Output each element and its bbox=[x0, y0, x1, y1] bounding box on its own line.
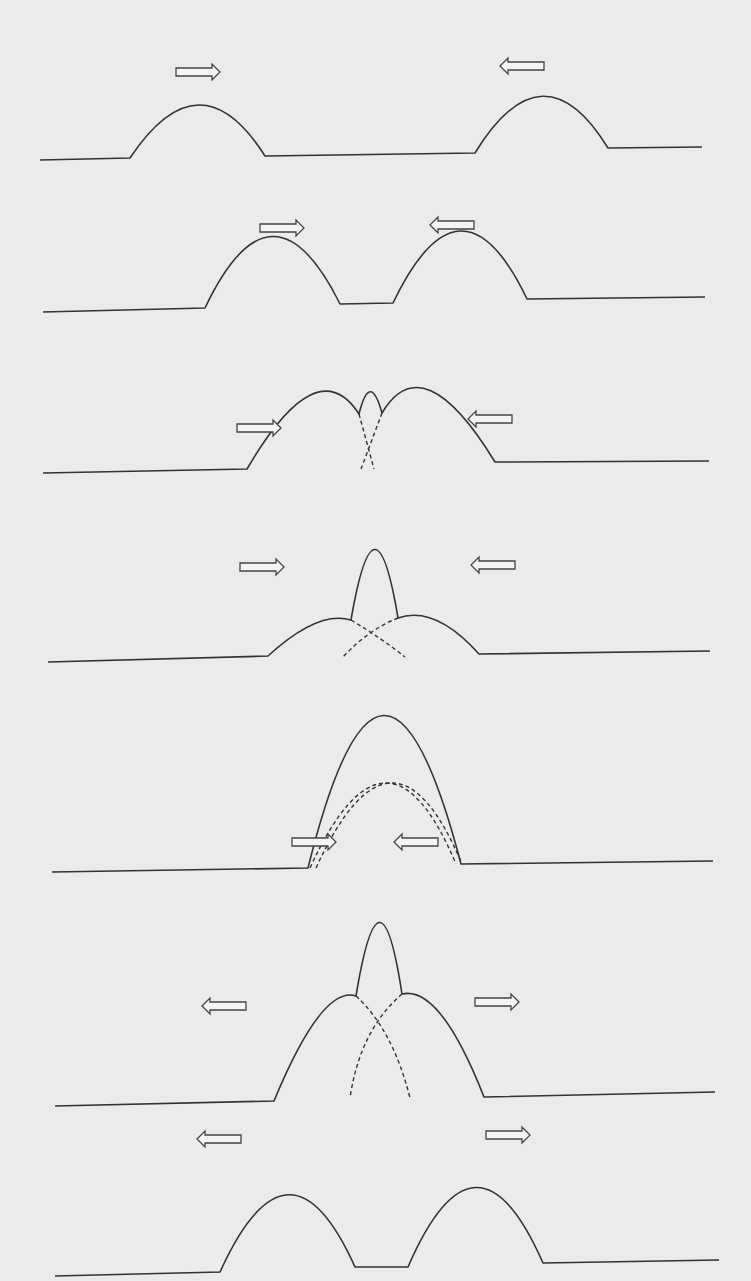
component-pulse-dashed bbox=[343, 618, 398, 657]
frame-3 bbox=[43, 388, 709, 473]
frame-1 bbox=[40, 58, 702, 160]
arrow-left-icon bbox=[430, 217, 474, 233]
arrow-right-icon bbox=[260, 220, 304, 236]
arrow-left-icon bbox=[500, 58, 544, 74]
arrow-left-icon bbox=[202, 998, 246, 1014]
arrow-right-icon bbox=[176, 64, 220, 80]
arrow-left-icon bbox=[471, 557, 515, 573]
arrow-left-icon bbox=[394, 834, 438, 850]
wave-pulse-line bbox=[43, 231, 705, 312]
frame-5 bbox=[52, 715, 713, 872]
wave-pulse-line bbox=[40, 96, 702, 160]
arrow-left-icon bbox=[468, 411, 512, 427]
component-pulse-dashed bbox=[350, 994, 402, 1098]
frame-4 bbox=[48, 549, 710, 662]
wave-pulse-line bbox=[52, 715, 713, 872]
arrow-right-icon bbox=[237, 420, 281, 436]
wave-pulse-line bbox=[43, 388, 709, 473]
frame-7 bbox=[55, 1127, 719, 1276]
arrow-right-icon bbox=[240, 559, 284, 575]
component-pulse-dashed bbox=[351, 620, 405, 657]
arrow-right-icon bbox=[475, 994, 519, 1010]
component-pulse-dashed bbox=[310, 783, 456, 868]
wave-pulse-line bbox=[55, 922, 715, 1106]
arrow-left-icon bbox=[197, 1131, 241, 1147]
wave-pulse-line bbox=[55, 1187, 719, 1276]
arrow-right-icon bbox=[486, 1127, 530, 1143]
frame-6 bbox=[55, 922, 715, 1106]
frames-group bbox=[40, 58, 719, 1276]
frame-2 bbox=[43, 217, 705, 312]
wave-pulse-line bbox=[48, 549, 710, 662]
wave-superposition-diagram bbox=[0, 0, 751, 1281]
component-pulse-dashed bbox=[361, 413, 382, 469]
